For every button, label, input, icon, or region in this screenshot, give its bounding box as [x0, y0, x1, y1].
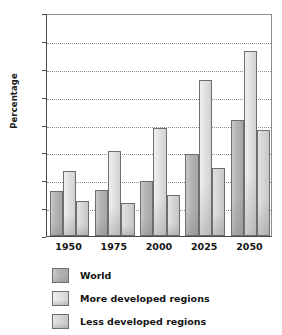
bar-shading — [200, 183, 211, 235]
bar-shading — [122, 225, 133, 236]
bar — [140, 181, 153, 236]
y-axis-tick-mark — [42, 126, 46, 127]
bar-group — [140, 15, 180, 236]
legend-item: Less developed regions — [52, 310, 278, 333]
bar — [76, 201, 89, 236]
bar-group — [95, 15, 135, 236]
bar — [231, 120, 244, 236]
x-axis-tick-label: 1950 — [46, 241, 91, 252]
bar — [63, 171, 76, 236]
legend-item: More developed regions — [52, 287, 278, 310]
legend-swatch — [52, 268, 69, 283]
x-axis-tick-label: 2000 — [136, 241, 181, 252]
bar — [108, 151, 121, 236]
bar — [167, 195, 180, 236]
bar-shading — [258, 199, 269, 235]
y-axis-title: Percentage — [9, 61, 19, 141]
chart-legend: WorldMore developed regionsLess develope… — [52, 264, 278, 333]
bar-shading — [77, 224, 88, 235]
bar-shading — [64, 214, 75, 235]
bar — [257, 130, 270, 236]
bar-chart-figure: Percentage 0510152025303540 195019752000… — [0, 0, 282, 335]
bar — [244, 51, 257, 236]
y-axis-tick-mark — [42, 98, 46, 99]
bar — [199, 80, 212, 236]
bar-shading — [109, 207, 120, 235]
bar-shading — [51, 221, 62, 235]
legend-item: World — [52, 264, 278, 287]
bar-shading — [245, 173, 256, 235]
bar-group — [50, 15, 90, 236]
bar — [185, 154, 198, 237]
legend-swatch — [52, 314, 69, 329]
legend-label: Less developed regions — [80, 316, 206, 327]
bar-shading — [154, 199, 165, 235]
bar — [153, 128, 166, 236]
y-axis-tick-mark — [42, 70, 46, 71]
legend-swatch-shading — [53, 277, 68, 282]
plot-area — [46, 14, 272, 237]
bar-shading — [186, 208, 197, 235]
y-axis-tick-mark — [42, 42, 46, 43]
bar-shading — [141, 217, 152, 235]
y-axis-tick-mark — [42, 153, 46, 154]
legend-label: More developed regions — [80, 293, 210, 304]
bar-shading — [168, 222, 179, 235]
legend-swatch — [52, 291, 69, 306]
y-axis-tick-mark — [42, 237, 46, 238]
x-axis-tick-label: 2050 — [227, 241, 272, 252]
bar-shading — [213, 213, 224, 235]
x-axis-tick-label: 2025 — [182, 241, 227, 252]
bar — [121, 203, 134, 236]
bar-shading — [96, 220, 107, 235]
bar-group — [231, 15, 271, 236]
bar — [95, 190, 108, 236]
bar-shading — [232, 196, 243, 235]
bar — [212, 168, 225, 236]
legend-label: World — [80, 270, 111, 281]
y-axis-tick-mark — [42, 181, 46, 182]
bar-group — [185, 15, 225, 236]
bar — [50, 191, 63, 236]
y-axis-tick-mark — [42, 14, 46, 15]
y-axis-tick-mark — [42, 209, 46, 210]
x-axis-tick-label: 1975 — [91, 241, 136, 252]
legend-swatch-shading — [53, 323, 68, 328]
legend-swatch-shading — [53, 300, 68, 305]
